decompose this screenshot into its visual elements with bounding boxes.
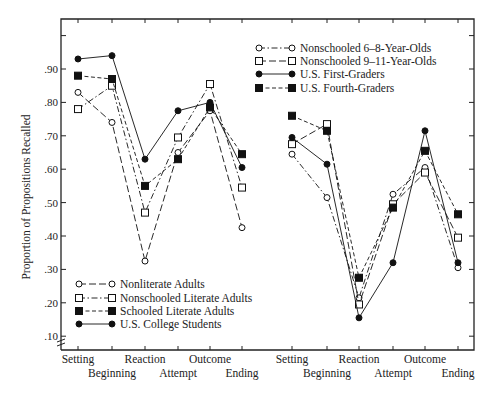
filled-square-marker-icon	[289, 85, 296, 92]
legend-label: Nonliterate Adults	[120, 278, 205, 290]
series-line	[292, 131, 458, 318]
y-axis-label: Proportion of Propositions Recalled	[20, 114, 33, 279]
filled-circle-marker-icon	[422, 128, 428, 134]
open-square-marker-icon	[289, 141, 296, 148]
filled-circle-marker-icon	[256, 71, 262, 77]
open-square-marker-icon	[109, 295, 116, 302]
open-square-marker-icon	[207, 81, 214, 88]
filled-square-marker-icon	[356, 274, 363, 281]
filled-circle-marker-icon	[289, 134, 295, 140]
open-square-marker-icon	[455, 234, 462, 241]
open-circle-marker-icon	[289, 151, 295, 157]
y-tick-label: .40	[44, 230, 58, 242]
open-circle-marker-icon	[289, 45, 295, 51]
open-square-marker-icon	[142, 209, 149, 216]
series-nonschooled-9-11-year-olds	[289, 121, 462, 308]
x-category-label: Beginning	[88, 367, 136, 380]
x-category-label: Setting	[62, 353, 95, 366]
open-circle-marker-icon	[175, 150, 181, 156]
open-circle-marker-icon	[142, 258, 148, 264]
series-u-s-fourth-graders	[289, 112, 462, 281]
filled-square-marker-icon	[142, 182, 149, 189]
open-square-marker-icon	[75, 106, 82, 113]
legend-item: Schooled Literate Adults	[76, 305, 235, 317]
series-line	[78, 84, 242, 213]
legend-item: Nonschooled 6–8-Year-Olds	[256, 42, 432, 54]
x-category-label: Outcome	[189, 353, 231, 365]
filled-square-marker-icon	[455, 211, 462, 218]
open-square-marker-icon	[239, 184, 246, 191]
open-square-marker-icon	[289, 58, 296, 65]
series-u-s-first-graders	[289, 128, 461, 321]
filled-circle-marker-icon	[109, 53, 115, 59]
filled-circle-marker-icon	[455, 260, 461, 266]
filled-square-marker-icon	[289, 112, 296, 119]
open-square-marker-icon	[324, 121, 331, 128]
y-tick-label: .90	[44, 63, 58, 75]
filled-circle-marker-icon	[239, 165, 245, 171]
filled-square-marker-icon	[109, 76, 116, 83]
filled-circle-marker-icon	[142, 156, 148, 162]
legend-item: Nonliterate Adults	[76, 278, 205, 290]
legend-item: U.S. First-Graders	[256, 68, 385, 80]
y-tick-label: .30	[44, 263, 58, 275]
series-u-s-college-students	[75, 53, 245, 171]
open-square-marker-icon	[422, 169, 429, 176]
open-circle-marker-icon	[390, 191, 396, 197]
open-circle-marker-icon	[256, 45, 262, 51]
filled-square-marker-icon	[256, 85, 263, 92]
filled-circle-marker-icon	[76, 321, 82, 327]
filled-square-marker-icon	[324, 127, 331, 134]
legend-item: Nonschooled Literate Adults	[76, 292, 253, 304]
series-nonliterate-adults	[75, 89, 245, 264]
filled-circle-marker-icon	[109, 321, 115, 327]
legend-label: Schooled Literate Adults	[120, 305, 235, 317]
x-category-label: Attempt	[374, 367, 412, 380]
open-circle-marker-icon	[324, 195, 330, 201]
y-tick-label: .50	[44, 197, 58, 209]
series-line	[292, 154, 458, 298]
filled-circle-marker-icon	[289, 71, 295, 77]
legend-adults: Nonliterate AdultsNonschooled Literate A…	[76, 278, 253, 331]
recall-chart: .10.20.30.40.50.60.70.80.90 SettingBegin…	[0, 0, 499, 397]
legend-item: U.S. Fourth-Graders	[256, 82, 395, 94]
legend-label: Nonschooled 6–8-Year-Olds	[300, 42, 432, 54]
open-square-marker-icon	[256, 58, 263, 65]
series-line	[78, 56, 242, 168]
x-category-label: Beginning	[303, 367, 351, 380]
open-circle-marker-icon	[109, 281, 115, 287]
filled-circle-marker-icon	[390, 260, 396, 266]
filled-square-marker-icon	[390, 204, 397, 211]
legend-item: U.S. College Students	[76, 318, 222, 331]
open-square-marker-icon	[76, 295, 83, 302]
filled-square-marker-icon	[239, 151, 246, 158]
legend-label: U.S. First-Graders	[300, 68, 385, 80]
filled-square-marker-icon	[76, 308, 83, 315]
open-circle-marker-icon	[76, 281, 82, 287]
x-category-label: Reaction	[339, 353, 380, 365]
filled-circle-marker-icon	[356, 315, 362, 321]
filled-square-marker-icon	[109, 308, 116, 315]
filled-square-marker-icon	[175, 156, 182, 163]
filled-square-marker-icon	[422, 147, 429, 154]
x-category-label: Outcome	[404, 353, 446, 365]
x-category-label: Attempt	[159, 367, 197, 380]
legend-children: Nonschooled 6–8-Year-OldsNonschooled 9–1…	[256, 42, 438, 94]
series-line	[292, 116, 458, 278]
legend-label: Nonschooled 9–11-Year-Olds	[300, 55, 437, 67]
x-category-label: Reaction	[125, 353, 166, 365]
filled-circle-marker-icon	[175, 108, 181, 114]
filled-circle-marker-icon	[75, 56, 81, 62]
y-tick-label: .80	[44, 96, 58, 108]
x-category-label: Setting	[276, 353, 309, 366]
filled-circle-marker-icon	[324, 161, 330, 167]
legend-item: Nonschooled 9–11-Year-Olds	[256, 55, 438, 67]
filled-square-marker-icon	[75, 72, 82, 79]
x-category-label: Ending	[441, 367, 474, 380]
series-nonschooled-6-8-year-olds	[289, 151, 461, 301]
y-tick-label: .20	[44, 297, 58, 309]
y-tick-label: .10	[44, 330, 58, 342]
open-circle-marker-icon	[109, 119, 115, 125]
y-tick-label: .60	[44, 163, 58, 175]
legend-label: Nonschooled Literate Adults	[120, 292, 253, 304]
